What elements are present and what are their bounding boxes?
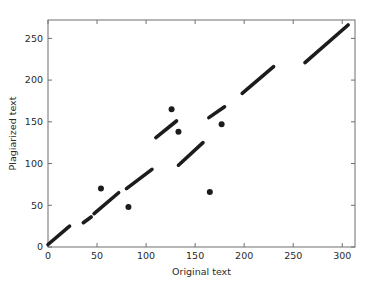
y-tick-label: 150: [25, 116, 43, 127]
data-point: [169, 106, 175, 112]
data-point: [219, 121, 225, 127]
y-tick-label: 200: [25, 74, 43, 85]
data-point: [175, 129, 181, 135]
y-axis-title: Plagiarized text: [7, 96, 18, 170]
y-tick-label: 250: [25, 33, 43, 44]
x-tick-label: 100: [137, 250, 155, 261]
x-tick-label: 250: [284, 250, 302, 261]
x-tick-label: 200: [235, 250, 253, 261]
data-point: [125, 204, 131, 210]
y-tick-label: 0: [37, 241, 43, 252]
data-point: [207, 189, 213, 195]
x-tick-label: 150: [186, 250, 204, 261]
scatter-plot-canvas: 050100150200250300 050100150200250 Origi…: [0, 0, 386, 283]
x-tick-label: 0: [45, 250, 51, 261]
y-tick-label: 50: [31, 200, 43, 211]
data-point: [98, 186, 104, 192]
y-tick-label: 100: [25, 158, 43, 169]
x-tick-label: 50: [91, 250, 103, 261]
x-tick-label: 300: [333, 250, 351, 261]
x-axis-title: Original text: [172, 266, 231, 277]
chart-figure: 050100150200250300 050100150200250 Origi…: [0, 0, 386, 283]
